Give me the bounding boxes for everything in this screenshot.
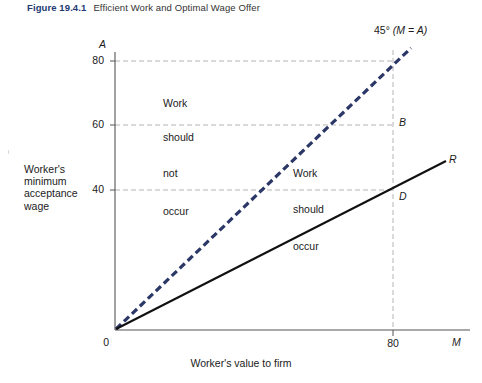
x-tick-label-80: 80 — [379, 337, 407, 349]
forty-five-paren-close: ) — [424, 24, 428, 36]
forty-five-A: A — [417, 24, 424, 36]
y-tick-label-80: 80 — [72, 54, 104, 66]
y-axis-title: Worker's minimum acceptance wage — [24, 163, 78, 212]
left-region-word-2: should — [163, 131, 194, 143]
point-label-B: B — [399, 116, 406, 128]
x-axis-title: Worker's value to firm — [0, 357, 482, 369]
x-axis-symbol: M — [452, 336, 461, 348]
right-region-word-3: occur — [293, 240, 319, 252]
y-axis-title-line-2: minimum — [24, 175, 78, 187]
left-region-word-4: occur — [163, 205, 189, 217]
point-label-R: R — [449, 153, 457, 165]
forty-five-degree-annotation: 45° (M = A) — [374, 24, 427, 36]
forty-five-equals: = — [405, 24, 417, 36]
left-region-word-1: Work — [163, 97, 187, 109]
chart-plot-area: A 80 60 40 0 80 M B D R Work should not … — [0, 0, 482, 383]
series-reservation-line-R — [116, 161, 446, 329]
y-axis-title-line-3: acceptance — [24, 187, 78, 199]
right-region-word-1: Work — [293, 167, 317, 179]
right-region-word-2: should — [293, 203, 324, 215]
series-45-degree-line — [116, 48, 411, 329]
y-axis-title-line-1: Worker's — [24, 163, 78, 175]
left-region-word-3: not — [163, 167, 178, 179]
y-axis-symbol: A — [99, 38, 106, 50]
origin-label: 0 — [95, 336, 109, 348]
y-axis-title-line-4: wage — [24, 200, 78, 212]
point-label-D: D — [399, 190, 407, 202]
forty-five-degree-value: 45° — [374, 24, 390, 36]
y-tick-label-60: 60 — [72, 118, 104, 130]
forty-five-M: M — [396, 24, 405, 36]
